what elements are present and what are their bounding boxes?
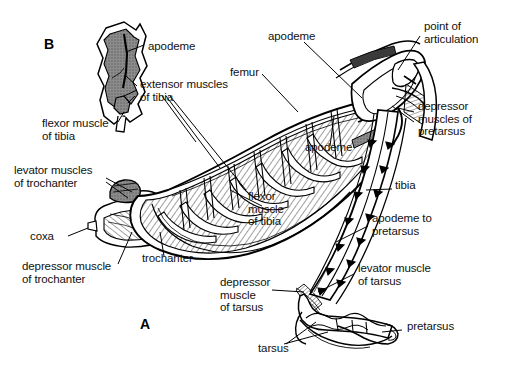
- label-apodeme-to-pretarsus: apodeme to pretarsus: [372, 212, 432, 237]
- label-levator-muscle-of-tarsus: levator muscle of tarsus: [358, 262, 431, 287]
- label-trochanter: trochanter: [142, 252, 193, 265]
- label-depressor-muscle-of-tarsus: depressor muscle of tarsus: [220, 276, 270, 314]
- label-pretarsus: pretarsus: [407, 320, 454, 333]
- label-point-of-articulation: point of articulation: [424, 20, 478, 45]
- label-apodeme-top: apodeme: [268, 30, 315, 43]
- label-apodeme-b: apodeme: [148, 40, 195, 53]
- label-flexor-muscle-of-tibia: flexor muscle of tibia: [248, 190, 284, 228]
- label-levator-muscles-of-trochanter: levator muscles of trochanter: [14, 164, 92, 189]
- label-apodeme-mid: apodeme: [305, 141, 352, 154]
- label-extensor-muscles-of-tibia: extensor muscles of tibia: [140, 78, 228, 103]
- label-depressor-muscles-of-pretarsus: depressor muscles of pretarsus: [418, 100, 472, 138]
- label-coxa: coxa: [30, 230, 54, 243]
- label-femur: femur: [230, 66, 259, 79]
- label-depressor-muscle-of-trochanter: depressor muscle of trochanter: [22, 260, 111, 285]
- panel-label-a: A: [140, 316, 150, 332]
- label-flexor-muscle-of-tibia-b: flexor muscle of tibia: [42, 117, 108, 142]
- panel-label-b: B: [44, 36, 54, 52]
- label-tibia: tibia: [395, 179, 416, 192]
- label-tarsus: tarsus: [258, 342, 289, 355]
- insect-leg-diagram: B A apodeme extensor muscles of tibia fl…: [0, 0, 506, 376]
